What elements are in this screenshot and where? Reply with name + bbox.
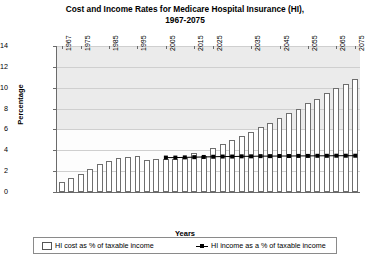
line-marker xyxy=(164,156,168,160)
x-axis-tick-mark xyxy=(280,46,281,49)
line-marker xyxy=(296,154,300,158)
x-axis-tick-mark xyxy=(251,46,252,49)
y-axis-label: Percentage xyxy=(16,65,25,145)
x-axis-tick-mark xyxy=(166,46,167,49)
x-axis-tick-mark xyxy=(308,46,309,49)
line-marker xyxy=(268,154,272,158)
legend-label-hi-cost: HI cost as % of taxable income xyxy=(55,241,154,250)
chart-legend: HI cost as % of taxable income HI income… xyxy=(33,237,337,254)
x-axis-tick-label: 2005 xyxy=(169,35,176,51)
x-axis-tick-mark xyxy=(62,46,63,49)
line-marker xyxy=(221,155,225,159)
line-series xyxy=(57,46,360,192)
legend-item-hi-cost: HI cost as % of taxable income xyxy=(42,241,154,251)
x-axis-tick-mark xyxy=(213,46,214,49)
line-marker xyxy=(315,154,319,158)
x-axis-tick-label: 2025 xyxy=(216,35,223,51)
line-marker xyxy=(230,155,234,159)
line-marker xyxy=(287,154,291,158)
line-marker xyxy=(278,154,282,158)
x-axis-tick-mark xyxy=(109,46,110,49)
x-axis-tick-label: 1995 xyxy=(140,35,147,51)
line-marker xyxy=(325,154,329,158)
line-marker xyxy=(183,155,187,159)
x-axis-tick-label: 1985 xyxy=(112,35,119,51)
line-marker xyxy=(211,155,215,159)
legend-item-hi-income: HI income as a % of taxable income xyxy=(196,241,326,251)
x-axis-tick-label: 1967 xyxy=(65,35,72,51)
bar-swatch-icon xyxy=(42,242,52,250)
y-axis-tick-label: 12 xyxy=(0,63,8,70)
x-axis-tick-label: 2035 xyxy=(254,35,261,51)
line-marker xyxy=(192,155,196,159)
y-axis-tick-label: 10 xyxy=(0,84,8,91)
x-axis-tick-label: 2065 xyxy=(339,35,346,51)
chart-title: Cost and Income Rates for Medicare Hospi… xyxy=(0,4,370,26)
y-axis-tick-label: 6 xyxy=(0,125,8,132)
chart-container: Cost and Income Rates for Medicare Hospi… xyxy=(0,0,370,259)
x-axis-tick-mark xyxy=(355,46,356,49)
line-marker xyxy=(173,156,177,160)
line-marker xyxy=(334,154,338,158)
x-axis-tick-mark xyxy=(137,46,138,49)
x-axis-tick-label: 1975 xyxy=(84,35,91,51)
line-marker-icon xyxy=(196,243,208,249)
x-axis-tick-label: 2015 xyxy=(197,35,204,51)
line-marker xyxy=(259,154,263,158)
y-axis-tick-label: 14 xyxy=(0,42,8,49)
x-axis-tick-mark xyxy=(194,46,195,49)
line-marker xyxy=(240,154,244,158)
plot-area: 1967197519851995200520152025203520452055… xyxy=(56,46,360,193)
x-axis-tick-label: 2055 xyxy=(311,35,318,51)
x-axis-tick-label: 2075 xyxy=(358,35,365,51)
y-axis-tick-label: 2 xyxy=(0,167,8,174)
y-axis-tick-label: 8 xyxy=(0,105,8,112)
legend-label-hi-income: HI income as a % of taxable income xyxy=(211,241,326,250)
x-axis-tick-mark xyxy=(81,46,82,49)
y-axis-tick-label: 0 xyxy=(0,188,8,195)
line-marker xyxy=(202,155,206,159)
chart-title-line-2: 1967-2075 xyxy=(0,15,370,26)
x-axis-tick-label: 2045 xyxy=(283,35,290,51)
x-axis-tick-mark xyxy=(336,46,337,49)
line-marker xyxy=(306,154,310,158)
line-marker xyxy=(249,154,253,158)
line-marker xyxy=(353,154,357,158)
y-axis-tick-label: 4 xyxy=(0,146,8,153)
line-marker xyxy=(344,154,348,158)
chart-title-line-1: Cost and Income Rates for Medicare Hospi… xyxy=(0,4,370,15)
